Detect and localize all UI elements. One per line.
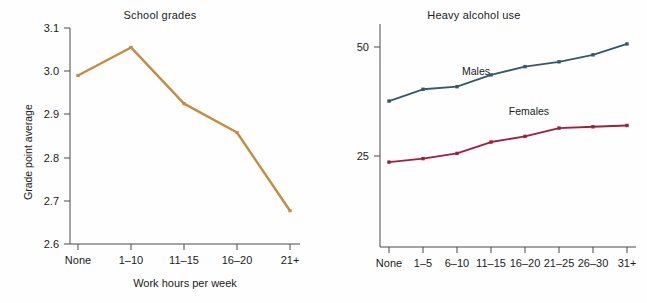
data-point bbox=[625, 42, 628, 45]
data-point bbox=[235, 131, 238, 134]
data-point bbox=[557, 126, 560, 129]
data-point bbox=[387, 99, 390, 102]
y-tick-label-right-0: 50 bbox=[357, 41, 369, 53]
data-point bbox=[76, 74, 79, 77]
data-line-gpa bbox=[78, 47, 290, 210]
x-tick-label-right-2: 6–10 bbox=[445, 257, 469, 269]
x-tick-label-right-0: None bbox=[376, 257, 402, 269]
chart-svg-school-grades: 3.1 3.0 2.9 2.8 2.7 2.6 None 1–10 11–15 … bbox=[0, 0, 324, 303]
data-point bbox=[288, 209, 291, 212]
x-tick-label-right-1: 1–5 bbox=[414, 257, 432, 269]
x-ticks-left bbox=[78, 244, 290, 250]
y-tick-label-right-1: 25 bbox=[357, 150, 369, 162]
y-tick-label-left-3: 2.8 bbox=[44, 152, 59, 164]
y-ticks-left bbox=[64, 28, 70, 244]
figure-canvas: School grades Grade point average Work h… bbox=[0, 0, 647, 303]
data-point bbox=[455, 85, 458, 88]
x-tick-label-left-1: 1–10 bbox=[119, 254, 143, 266]
data-line-males bbox=[389, 44, 627, 101]
data-point bbox=[591, 53, 594, 56]
data-point bbox=[591, 125, 594, 128]
data-point bbox=[387, 160, 390, 163]
y-tick-label-left-1: 3.0 bbox=[44, 65, 59, 77]
x-tick-label-right-5: 21–25 bbox=[544, 257, 575, 269]
x-tick-label-right-6: 26–30 bbox=[578, 257, 609, 269]
series-annotation-males: Males bbox=[462, 65, 490, 77]
data-point bbox=[625, 124, 628, 127]
x-tick-label-left-3: 16–20 bbox=[222, 254, 253, 266]
data-point bbox=[455, 152, 458, 155]
y-ticks-right bbox=[374, 47, 380, 156]
data-point bbox=[523, 135, 526, 138]
data-point bbox=[182, 102, 185, 105]
x-tick-label-left-2: 11–15 bbox=[169, 254, 199, 266]
x-tick-label-right-4: 16–20 bbox=[510, 257, 541, 269]
x-ticks-right bbox=[389, 247, 627, 253]
data-line-females bbox=[389, 125, 627, 162]
y-tick-label-left-2: 2.9 bbox=[44, 108, 59, 120]
chart-panel-heavy-alcohol-use: Heavy alcohol use 50 25 bbox=[324, 0, 647, 303]
chart-panel-school-grades: School grades Grade point average Work h… bbox=[0, 0, 324, 303]
chart-svg-heavy-alcohol-use: 50 25 None 1–5 6–10 11–15 16–20 21–25 26… bbox=[324, 0, 647, 303]
data-point bbox=[129, 46, 132, 49]
data-point bbox=[489, 140, 492, 143]
x-tick-label-left-0: None bbox=[65, 254, 91, 266]
data-point bbox=[421, 157, 424, 160]
data-point bbox=[557, 60, 560, 63]
data-point bbox=[523, 65, 526, 68]
y-tick-label-left-0: 3.1 bbox=[44, 22, 59, 34]
y-tick-label-left-4: 2.7 bbox=[44, 195, 59, 207]
data-point bbox=[421, 88, 424, 91]
x-tick-label-right-7: 31+ bbox=[618, 257, 637, 269]
data-points-gpa bbox=[76, 46, 291, 212]
x-tick-label-left-4: 21+ bbox=[281, 254, 300, 266]
y-tick-label-left-5: 2.6 bbox=[44, 238, 59, 250]
data-points-males bbox=[387, 42, 628, 103]
series-annotation-females: Females bbox=[509, 105, 549, 117]
data-points-females bbox=[387, 124, 628, 164]
x-tick-label-right-3: 11–15 bbox=[476, 257, 506, 269]
